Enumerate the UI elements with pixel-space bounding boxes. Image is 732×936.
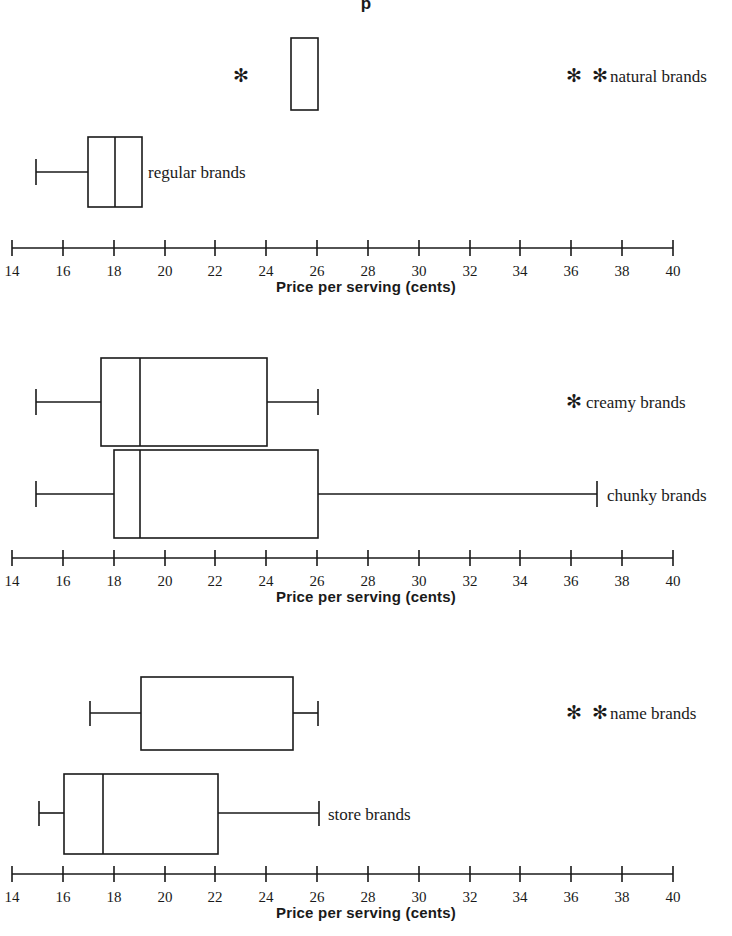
legend-star-2-name-brands: ✻ (592, 702, 608, 723)
svg-text:30: 30 (412, 889, 427, 905)
svg-text:14: 14 (5, 889, 21, 905)
svg-text:26: 26 (310, 573, 326, 589)
boxplot-panel-2: ✻ creamy brands chunky brands (0, 340, 732, 610)
box-creamy-brands (101, 358, 267, 446)
series-label-store-brands: store brands (328, 805, 411, 824)
svg-text:14: 14 (5, 263, 21, 279)
box-store-brands (64, 774, 218, 854)
svg-text:32: 32 (463, 263, 478, 279)
axis-caption-panel-3: Price per serving (cents) (0, 904, 732, 921)
svg-text:40: 40 (666, 573, 681, 589)
legend-star-creamy-brands: ✻ (566, 391, 582, 412)
svg-text:26: 26 (310, 263, 326, 279)
svg-text:30: 30 (412, 573, 427, 589)
boxplot-panel-3: ✻ ✻ name brands store brands (0, 650, 732, 936)
svg-text:40: 40 (666, 889, 681, 905)
series-label-regular-brands: regular brands (148, 163, 246, 182)
boxplot-panel-1: ✻ regular brands ✻ ✻ natural brands (0, 0, 732, 300)
svg-text:38: 38 (615, 263, 630, 279)
svg-text:18: 18 (107, 889, 122, 905)
svg-text:24: 24 (259, 263, 275, 279)
svg-text:34: 34 (513, 573, 529, 589)
svg-text:24: 24 (259, 573, 275, 589)
svg-text:20: 20 (158, 573, 173, 589)
legend-star-1-natural-brands: ✻ (566, 65, 582, 86)
series-label-chunky-brands: chunky brands (607, 486, 707, 505)
svg-text:26: 26 (310, 889, 326, 905)
svg-text:16: 16 (56, 573, 72, 589)
svg-text:34: 34 (513, 263, 529, 279)
svg-text:20: 20 (158, 889, 173, 905)
svg-text:28: 28 (361, 263, 376, 279)
outlier-star-natural-brands: ✻ (233, 65, 249, 86)
svg-text:34: 34 (513, 889, 529, 905)
svg-text:24: 24 (259, 889, 275, 905)
svg-text:14: 14 (5, 573, 21, 589)
box-chunky-brands (114, 450, 318, 538)
axis-caption-panel-1: Price per serving (cents) (0, 278, 732, 295)
axis-caption-panel-2: Price per serving (cents) (0, 588, 732, 605)
svg-text:22: 22 (208, 889, 223, 905)
svg-text:18: 18 (107, 573, 122, 589)
svg-text:22: 22 (208, 573, 223, 589)
legend-star-1-name-brands: ✻ (566, 702, 582, 723)
svg-text:16: 16 (56, 263, 72, 279)
svg-text:16: 16 (56, 889, 72, 905)
axis-tick-labels-panel-3: 14 16 18 20 22 24 26 28 30 32 34 36 38 4… (5, 889, 681, 905)
svg-text:36: 36 (564, 573, 580, 589)
svg-text:38: 38 (615, 573, 630, 589)
svg-text:28: 28 (361, 573, 376, 589)
svg-text:32: 32 (463, 573, 478, 589)
series-label-creamy-brands: creamy brands (586, 393, 686, 412)
svg-text:28: 28 (361, 889, 376, 905)
box-name-brands (141, 677, 293, 750)
svg-text:38: 38 (615, 889, 630, 905)
box-natural-brands (291, 38, 318, 110)
legend-star-2-natural-brands: ✻ (592, 65, 608, 86)
panel-3-plot: ✻ ✻ name brands store brands (0, 650, 732, 936)
svg-text:18: 18 (107, 263, 122, 279)
panel-2-plot: ✻ creamy brands chunky brands (0, 340, 732, 610)
svg-text:20: 20 (158, 263, 173, 279)
svg-text:30: 30 (412, 263, 427, 279)
svg-text:40: 40 (666, 263, 681, 279)
axis-tick-labels-panel-2: 14 16 18 20 22 24 26 28 30 32 34 36 38 4… (5, 573, 681, 589)
svg-text:32: 32 (463, 889, 478, 905)
svg-text:22: 22 (208, 263, 223, 279)
svg-text:36: 36 (564, 889, 580, 905)
axis-tick-labels-panel-1: 14 16 18 20 22 24 26 28 30 32 34 36 38 4… (5, 263, 681, 279)
svg-text:36: 36 (564, 263, 580, 279)
series-label-name-brands: name brands (610, 704, 696, 723)
series-label-natural-brands: natural brands (610, 67, 707, 86)
panel-1-plot: ✻ regular brands ✻ ✻ natural brands (0, 0, 732, 300)
